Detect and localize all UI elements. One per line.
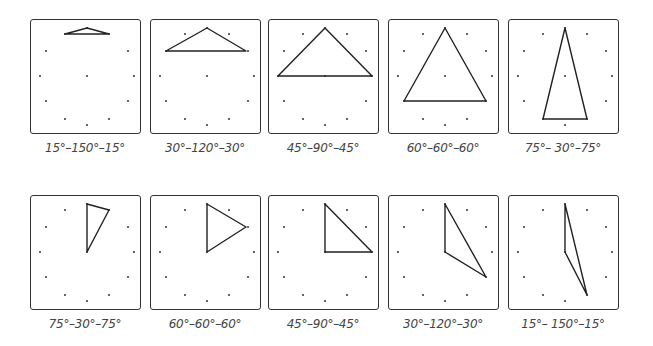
peg-dot [491, 251, 493, 253]
peg-dot [228, 33, 230, 35]
peg-dot [346, 209, 348, 211]
geoboard-diagram [31, 196, 139, 308]
peg-dot [159, 251, 161, 253]
peg-dot [302, 118, 304, 120]
geoboard-diagram [151, 196, 259, 308]
peg-dot [324, 124, 326, 126]
peg-dot [324, 300, 326, 302]
peg-dot [133, 251, 135, 253]
peg-dot [283, 226, 285, 228]
peg-dot [206, 300, 208, 302]
triangle-shape [445, 204, 486, 277]
peg-dot [523, 100, 525, 102]
peg-dot [159, 75, 161, 77]
triangle-shape [207, 204, 246, 252]
peg-dot [253, 75, 255, 77]
peg-dot [39, 75, 41, 77]
angle-label: 30°–120°–30° [140, 141, 270, 155]
peg-dot [542, 209, 544, 211]
peg-dot [403, 50, 405, 52]
geoboard-panel [30, 19, 141, 134]
peg-dot [365, 226, 367, 228]
peg-dot [523, 50, 525, 52]
peg-dot [302, 209, 304, 211]
peg-dot [45, 276, 47, 278]
peg-dot [397, 251, 399, 253]
peg-dot [133, 75, 135, 77]
angle-label: 45°–90°–45° [258, 317, 388, 331]
peg-dot [517, 75, 519, 77]
peg-dot [586, 33, 588, 35]
geoboard-diagram [151, 20, 259, 132]
geoboard-diagram [31, 20, 139, 132]
geoboard-diagram [269, 196, 377, 308]
peg-dot [253, 251, 255, 253]
triangle-shape [87, 204, 109, 252]
peg-dot [523, 226, 525, 228]
angle-label: 60°–60°–60° [140, 317, 270, 331]
peg-dot [346, 118, 348, 120]
center-peg-dot [206, 75, 208, 77]
peg-dot [127, 100, 129, 102]
geoboard-diagram [509, 196, 617, 308]
peg-dot [365, 276, 367, 278]
peg-dot [466, 209, 468, 211]
peg-dot [523, 276, 525, 278]
peg-dot [228, 209, 230, 211]
peg-dot [397, 75, 399, 77]
peg-dot [466, 294, 468, 296]
triangle-shape [565, 204, 587, 295]
peg-dot [444, 300, 446, 302]
peg-dot [39, 251, 41, 253]
geoboard-panel [268, 195, 379, 310]
peg-dot [611, 75, 613, 77]
peg-dot [422, 33, 424, 35]
peg-dot [466, 118, 468, 120]
peg-dot [466, 33, 468, 35]
peg-dot [403, 276, 405, 278]
peg-dot [228, 118, 230, 120]
peg-dot [165, 276, 167, 278]
geoboard-diagram [389, 20, 497, 132]
peg-dot [165, 100, 167, 102]
peg-dot [127, 226, 129, 228]
peg-dot [542, 33, 544, 35]
peg-dot [45, 50, 47, 52]
peg-dot [127, 50, 129, 52]
peg-dot [403, 226, 405, 228]
geoboard-panel [388, 195, 499, 310]
angle-label: 15°– 150°–15° [498, 317, 628, 331]
triangle-shape [325, 204, 372, 252]
peg-dot [605, 226, 607, 228]
peg-dot [184, 33, 186, 35]
peg-dot [127, 276, 129, 278]
triangle-shape [543, 28, 587, 119]
peg-dot [611, 251, 613, 253]
peg-dot [64, 294, 66, 296]
peg-dot [228, 294, 230, 296]
peg-dot [45, 100, 47, 102]
peg-dot [444, 124, 446, 126]
geoboard-panel [268, 19, 379, 134]
angle-label: 75°–30°–75° [20, 317, 150, 331]
peg-dot [422, 209, 424, 211]
peg-dot [165, 226, 167, 228]
peg-dot [277, 251, 279, 253]
geoboard-diagram [269, 20, 377, 132]
peg-dot [605, 276, 607, 278]
peg-dot [485, 226, 487, 228]
peg-dot [283, 100, 285, 102]
angle-label: 30°–120°–30° [378, 317, 508, 331]
geoboard-diagram [389, 196, 497, 308]
peg-dot [346, 33, 348, 35]
peg-dot [247, 276, 249, 278]
geoboard-panel [508, 19, 619, 134]
geoboard-panel [150, 19, 261, 134]
triangle-shape [166, 28, 246, 51]
peg-dot [564, 124, 566, 126]
geoboard-panel [508, 195, 619, 310]
peg-dot [64, 209, 66, 211]
geoboard-panel [150, 195, 261, 310]
peg-dot [485, 50, 487, 52]
peg-dot [283, 50, 285, 52]
